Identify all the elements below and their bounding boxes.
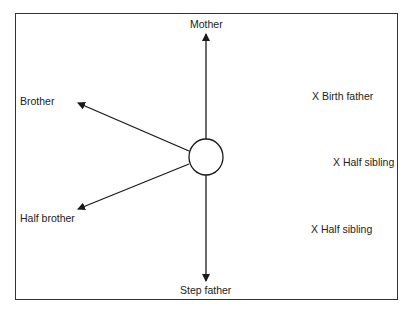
self-node-circle [189, 139, 223, 175]
label-brother: Brother [20, 96, 54, 107]
label-step-father: Step father [180, 285, 231, 296]
label-birth-father-excluded: X Birth father [312, 91, 373, 102]
label-half-sibling-excluded-1: X Half sibling [333, 157, 394, 168]
arrow-to-brother [78, 103, 189, 151]
arrow-to-half-brother [78, 164, 189, 209]
label-half-sibling-excluded-2: X Half sibling [311, 224, 372, 235]
label-mother: Mother [190, 19, 223, 30]
label-half-brother: Half brother [20, 213, 75, 224]
